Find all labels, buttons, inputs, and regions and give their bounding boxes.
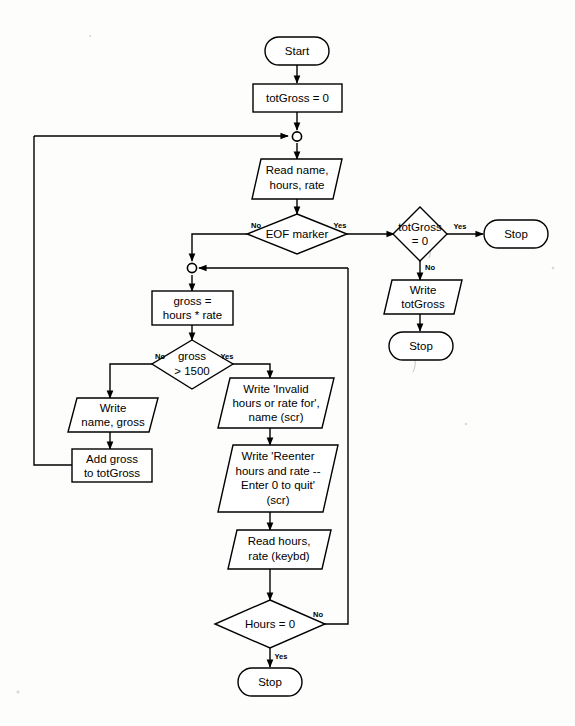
node-write-invalid[interactable]: Write 'Invalid hours or rate for', name … bbox=[218, 378, 334, 428]
node-write-name-gross-line2: name, gross bbox=[81, 416, 145, 428]
node-write-totgross[interactable]: Write totGross bbox=[384, 280, 462, 314]
node-compute-gross-line2: hours * rate bbox=[163, 309, 222, 321]
node-write-totgross-line1: Write bbox=[410, 284, 437, 296]
node-init-totgross[interactable]: totGross = 0 bbox=[253, 84, 342, 112]
node-write-name-gross[interactable]: Write name, gross bbox=[68, 398, 158, 432]
branch-label-totgross-no: No bbox=[425, 263, 435, 272]
node-read-hours-rate-line1: Read hours, bbox=[248, 535, 311, 547]
node-gross-decision[interactable]: gross > 1500 bbox=[152, 340, 233, 389]
branch-label-totgross-yes: Yes bbox=[454, 222, 467, 231]
branch-label-hours-yes: Yes bbox=[275, 652, 288, 661]
node-write-invalid-line2: hours or rate for', bbox=[232, 397, 319, 409]
node-write-reenter-line3: Enter 0 to quit' bbox=[241, 479, 315, 491]
node-write-invalid-line3: name (scr) bbox=[249, 411, 304, 423]
node-read-record-line2: hours, rate bbox=[270, 179, 325, 191]
node-write-reenter-line2: hours and rate -- bbox=[235, 465, 320, 477]
node-write-totgross-line2: totGross bbox=[401, 298, 445, 310]
node-write-invalid-line1: Write 'Invalid bbox=[243, 383, 308, 395]
conn-eof-no-to-merge2 bbox=[192, 234, 247, 261]
node-stop-after-write-label: Stop bbox=[409, 340, 433, 352]
branch-label-eof-yes: Yes bbox=[334, 221, 347, 230]
merge-connector-top bbox=[292, 132, 301, 141]
node-totgross-zero-line1: totGross bbox=[398, 221, 442, 233]
branch-label-eof-no: No bbox=[251, 221, 261, 230]
node-write-reenter[interactable]: Write 'Reenter hours and rate -- Enter 0… bbox=[218, 445, 338, 512]
node-read-hours-rate-line2: rate (keybd) bbox=[248, 550, 310, 562]
node-read-hours-rate[interactable]: Read hours, rate (keybd) bbox=[228, 530, 331, 569]
node-eof-decision[interactable]: EOF marker bbox=[247, 214, 347, 254]
branch-label-hours-no: No bbox=[313, 610, 323, 619]
flowchart-canvas: Start totGross = 0 Read name, hours, rat… bbox=[0, 0, 575, 726]
node-gross-decision-line1: gross bbox=[178, 350, 206, 362]
node-stop-top[interactable]: Stop bbox=[484, 220, 548, 248]
node-add-gross-line2: to totGross bbox=[84, 467, 140, 479]
branch-label-gross-yes: Yes bbox=[221, 352, 234, 361]
node-write-reenter-line1: Write 'Reenter bbox=[242, 450, 315, 462]
node-compute-gross[interactable]: gross = hours * rate bbox=[152, 291, 233, 325]
node-stop-bottom-label: Stop bbox=[258, 676, 282, 688]
flowchart-svg: Start totGross = 0 Read name, hours, rat… bbox=[0, 0, 575, 726]
scan-artifacts bbox=[16, 35, 554, 694]
node-start-label: Start bbox=[285, 45, 310, 57]
node-add-gross[interactable]: Add gross to totGross bbox=[72, 449, 152, 482]
node-totgross-zero-decision[interactable]: totGross = 0 bbox=[393, 207, 447, 261]
node-read-record[interactable]: Read name, hours, rate bbox=[252, 159, 342, 199]
node-eof-decision-label: EOF marker bbox=[266, 228, 329, 240]
node-init-totgross-label: totGross = 0 bbox=[266, 92, 329, 104]
node-stop-top-label: Stop bbox=[504, 228, 528, 240]
branch-label-gross-no: No bbox=[155, 352, 165, 361]
node-compute-gross-line1: gross = bbox=[173, 295, 211, 307]
node-gross-decision-line2: > 1500 bbox=[174, 365, 210, 377]
node-hours-decision-label: Hours = 0 bbox=[245, 618, 295, 630]
node-start[interactable]: Start bbox=[265, 37, 329, 65]
node-read-record-line1: Read name, bbox=[266, 164, 329, 176]
node-totgross-zero-line2: = 0 bbox=[412, 235, 428, 247]
conn-gross-yes-to-write-invalid bbox=[233, 364, 270, 378]
connector-lines bbox=[34, 65, 483, 667]
conn-gross-no-to-write-name bbox=[110, 364, 152, 398]
node-stop-after-write[interactable]: Stop bbox=[389, 332, 453, 360]
node-stop-bottom[interactable]: Stop bbox=[238, 668, 302, 696]
merge-connector-loop bbox=[187, 263, 196, 272]
node-write-reenter-line4: (scr) bbox=[267, 494, 290, 506]
node-add-gross-line1: Add gross bbox=[86, 453, 138, 465]
node-hours-decision[interactable]: Hours = 0 bbox=[215, 600, 325, 648]
node-write-name-gross-line1: Write bbox=[100, 402, 127, 414]
